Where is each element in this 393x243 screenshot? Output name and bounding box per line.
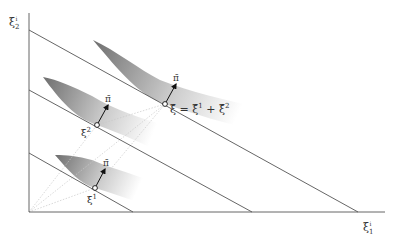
budget-lines bbox=[29, 30, 358, 212]
label-xi-bar-2: ξ̄2 bbox=[81, 126, 91, 138]
label-pi-agent-1: π̄ bbox=[103, 158, 109, 168]
label-pi-agent-2: π̄ bbox=[105, 94, 111, 104]
point-xi-bar-2 bbox=[95, 123, 100, 128]
budget-line-aggregate bbox=[29, 30, 358, 212]
label-xi-bar-1: ξ̄1 bbox=[87, 193, 97, 205]
point-xi-bar-1 bbox=[93, 186, 98, 191]
point-xi-bar bbox=[163, 102, 168, 107]
x-axis-label: ξ1i bbox=[363, 220, 374, 236]
edgeworth-aggregation-diagram: ξ2i ξ1i π̄ π̄ π̄ ξ̄ = ξ̄1 + ξ̄2 ξ̄2 ξ̄1 bbox=[0, 0, 393, 243]
label-pi-aggregate: π̄ bbox=[173, 73, 179, 83]
y-axis-label: ξ2i bbox=[9, 15, 20, 31]
